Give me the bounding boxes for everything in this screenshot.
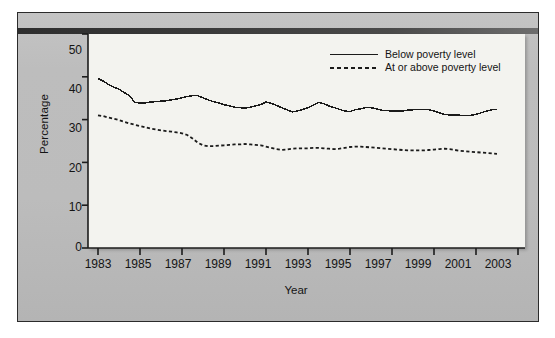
x-axis-title: Year xyxy=(236,284,356,296)
ytick-label-50: 50 xyxy=(56,43,82,57)
legend-label-below-poverty: Below poverty level xyxy=(385,48,475,61)
xtick-label-1995: 1995 xyxy=(318,257,358,271)
legend-label-at-or-above-poverty: At or above poverty level xyxy=(385,61,501,74)
xtick-label-2001: 2001 xyxy=(438,257,478,271)
ytick-label-40: 40 xyxy=(56,82,82,96)
y-axis-title: Percentage xyxy=(38,74,50,174)
xtick-label-1993: 1993 xyxy=(278,257,318,271)
xtick-label-1991: 1991 xyxy=(238,257,278,271)
legend-dotted-line-icon xyxy=(330,63,378,73)
xtick-label-1985: 1985 xyxy=(118,257,158,271)
ytick-label-20: 20 xyxy=(56,161,82,175)
xtick-label-1997: 1997 xyxy=(358,257,398,271)
legend-item-at-or-above-poverty: At or above poverty level xyxy=(330,61,501,74)
xtick-label-1983: 1983 xyxy=(78,257,118,271)
xtick-label-1987: 1987 xyxy=(158,257,198,271)
ytick-label-10: 10 xyxy=(56,200,82,214)
xtick-label-1999: 1999 xyxy=(398,257,438,271)
chart-legend: Below poverty level At or above poverty … xyxy=(330,48,501,74)
legend-item-below-poverty: Below poverty level xyxy=(330,48,501,61)
xtick-label-2003: 2003 xyxy=(478,257,518,271)
ytick-label-30: 30 xyxy=(56,121,82,135)
chart-figure: 50 40 30 20 10 0 Percentage 1983 1985 19… xyxy=(0,0,555,338)
xtick-label-1989: 1989 xyxy=(198,257,238,271)
legend-solid-line-icon xyxy=(330,50,378,60)
ytick-label-0: 0 xyxy=(56,240,82,254)
